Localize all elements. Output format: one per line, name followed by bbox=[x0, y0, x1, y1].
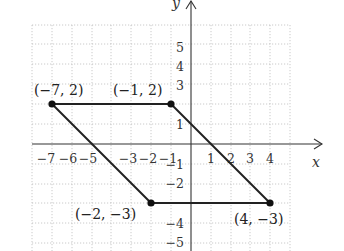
vertex-label: (4, −3) bbox=[234, 211, 283, 227]
coordinate-plane: x y −7 −6 −5 −3 −2 −1 1 2 3 4 5 4 3 1 −1… bbox=[0, 0, 344, 251]
x-tick: −7 bbox=[37, 151, 55, 166]
vertex-label: (−1, 2) bbox=[113, 82, 162, 98]
vertex-point bbox=[266, 199, 273, 206]
vertex-label: (−2, −3) bbox=[75, 206, 136, 222]
x-tick: 1 bbox=[207, 151, 215, 166]
x-tick: 3 bbox=[246, 151, 254, 166]
vertex-point bbox=[147, 199, 154, 206]
x-axis-label: x bbox=[312, 154, 320, 170]
x-tick: −5 bbox=[79, 151, 97, 166]
x-tick-labels: −7 −6 −5 −3 −2 −1 1 2 3 4 bbox=[37, 151, 274, 166]
vertex-point bbox=[48, 100, 55, 107]
y-tick-labels: 5 4 3 1 −1 −2 −4 −5 bbox=[166, 40, 184, 250]
x-tick: −6 bbox=[59, 151, 77, 166]
y-tick: 5 bbox=[176, 40, 184, 55]
y-tick: 1 bbox=[176, 117, 184, 132]
y-tick: −5 bbox=[166, 235, 184, 250]
y-axis-label: y bbox=[171, 0, 181, 11]
vertex-point bbox=[167, 100, 174, 107]
vertex-label: (−7, 2) bbox=[34, 82, 83, 98]
y-tick: −4 bbox=[166, 216, 184, 231]
y-tick: 3 bbox=[176, 78, 184, 93]
x-tick: 4 bbox=[266, 151, 274, 166]
x-tick: −2 bbox=[139, 151, 157, 166]
x-tick: −3 bbox=[119, 151, 137, 166]
y-tick: 4 bbox=[176, 59, 184, 74]
y-tick: −2 bbox=[166, 176, 184, 191]
y-tick: −1 bbox=[166, 157, 184, 172]
